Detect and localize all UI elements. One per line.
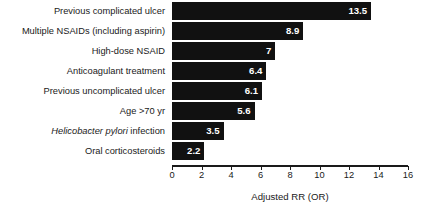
species-name: Helicobacter pylori [51, 126, 127, 136]
bar-row: 2.2 [172, 142, 408, 162]
category-label-row: High-dose NSAID [0, 42, 169, 62]
bar: 2.2 [172, 142, 204, 160]
x-axis-title: Adjusted RR (OR) [172, 192, 408, 202]
category-label: Previous complicated ulcer [54, 7, 165, 16]
bar-value-label: 6.1 [245, 86, 258, 96]
species-suffix: infection [128, 126, 165, 136]
category-label: Oral corticosteroids [85, 147, 165, 156]
bar-value-label: 8.9 [286, 26, 299, 36]
bar: 5.6 [172, 102, 255, 120]
category-label: Multiple NSAIDs (including aspirin) [22, 27, 165, 36]
bar-row: 7 [172, 42, 408, 62]
bar-row: 8.9 [172, 22, 408, 42]
category-label-row: Anticoagulant treatment [0, 62, 169, 82]
category-label-row: Previous uncomplicated ulcer [0, 82, 169, 102]
x-axis-tick-label: 4 [228, 171, 233, 180]
bar: 3.5 [172, 122, 224, 140]
x-axis-tick-label: 0 [169, 171, 174, 180]
category-label: Age >70 yr [120, 107, 165, 116]
bar-value-label: 6.4 [249, 66, 262, 76]
bar: 7 [172, 42, 275, 60]
bar: 6.1 [172, 82, 262, 100]
x-axis-tick-label: 6 [258, 171, 263, 180]
category-label: Previous uncomplicated ulcer [44, 87, 165, 96]
bar-row: 6.4 [172, 62, 408, 82]
x-axis-tick-label: 2 [199, 171, 204, 180]
bar-value-label: 5.6 [237, 106, 250, 116]
bar-value-label: 3.5 [206, 126, 219, 136]
x-axis-tick-label: 14 [373, 171, 383, 180]
bar-row: 13.5 [172, 2, 408, 22]
category-label: Anticoagulant treatment [67, 67, 165, 76]
bar-row: 6.1 [172, 82, 408, 102]
bar-value-label: 13.5 [348, 6, 367, 16]
category-label-italic-species: Helicobacter pylori infection [51, 127, 165, 136]
x-axis-tick-label: 16 [403, 171, 413, 180]
bar-row: 5.6 [172, 102, 408, 122]
bar: 6.4 [172, 62, 266, 80]
category-label-row: Multiple NSAIDs (including aspirin) [0, 22, 169, 42]
x-axis-tick-label: 8 [287, 171, 292, 180]
bar-value-label: 2.2 [187, 146, 200, 156]
bar: 8.9 [172, 22, 303, 40]
x-axis-tick-label: 10 [314, 171, 324, 180]
bar-value-label: 7 [266, 46, 271, 56]
category-label-row: Oral corticosteroids [0, 142, 169, 162]
plot-area: 13.5 8.9 7 6.4 6.1 5.6 [172, 2, 408, 165]
x-axis-tick-label: 12 [344, 171, 354, 180]
category-axis-labels: Previous complicated ulcer Multiple NSAI… [0, 2, 169, 162]
category-label-row: Age >70 yr [0, 102, 169, 122]
category-label: High-dose NSAID [92, 47, 165, 56]
bar-row: 3.5 [172, 122, 408, 142]
bar: 13.5 [172, 2, 371, 20]
category-label-row: Previous complicated ulcer [0, 2, 169, 22]
category-label-row: Helicobacter pylori infection [0, 122, 169, 142]
bar-chart: Previous complicated ulcer Multiple NSAI… [0, 0, 424, 213]
